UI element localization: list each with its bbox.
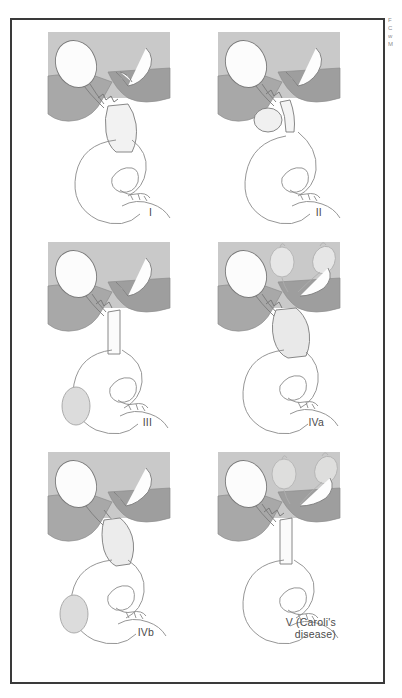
page-edge-note: F C w M [388, 16, 402, 60]
panel-label: IVb [102, 626, 154, 638]
choledochocele-cyst [60, 595, 88, 633]
intrahepatic-cyst-1 [272, 459, 296, 489]
intrahepatic-cyst-1 [270, 247, 294, 277]
panel-label: II [282, 206, 322, 218]
edge-note-line-4: M [388, 40, 402, 48]
edge-note-line-1: F [388, 16, 402, 24]
panel-label: III [106, 416, 152, 428]
extrahepatic-dilation [102, 518, 134, 566]
panel-grid: I [12, 20, 383, 682]
panel-label: V (Caroli's disease) [250, 616, 336, 640]
panel-type-5: V (Caroli's disease) [194, 448, 364, 656]
panel-type-3: III [24, 238, 194, 446]
panel-type-2: II [194, 28, 364, 236]
figure-frame: I [10, 18, 385, 684]
diverticulum [254, 108, 282, 132]
choledochocele-cyst [62, 387, 90, 425]
edge-note-line-2: C [388, 24, 402, 32]
panel-label: IVa [272, 416, 324, 428]
edge-note-line-3: w [388, 32, 402, 40]
panel-label: I [112, 206, 152, 218]
panel-type-4b: IVb [24, 448, 194, 656]
panel-type-4a: IVa [194, 238, 364, 446]
panel-type-1: I [24, 28, 194, 236]
